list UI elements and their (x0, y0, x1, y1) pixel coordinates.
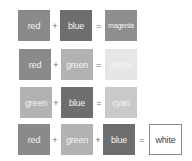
color-box-white: white (149, 124, 182, 155)
equals-sign: = (94, 49, 104, 80)
label-red: red (28, 21, 40, 31)
label-white: white (155, 135, 175, 145)
color-box-red: red (18, 10, 50, 41)
plus-sign: + (50, 124, 60, 155)
label-blue: blue (69, 98, 85, 108)
color-box-magenta: magenta (105, 10, 137, 41)
label-blue: blue (111, 135, 127, 145)
color-box-cyan: cyan (105, 87, 137, 118)
color-box-red: red (19, 49, 51, 80)
equals-sign: = (137, 124, 147, 155)
plus-sign: + (51, 49, 61, 80)
plus-sign: + (93, 124, 103, 155)
color-box-green: green (61, 49, 93, 80)
color-box-yellow: yellow (105, 49, 137, 80)
color-box-blue: blue (60, 10, 92, 41)
color-box-blue: blue (61, 87, 93, 118)
label-blue: blue (68, 21, 84, 31)
label-green: green (25, 98, 47, 108)
color-box-green: green (61, 124, 93, 155)
label-yellow: yellow (109, 60, 133, 70)
label-green: green (66, 60, 88, 70)
label-red: red (29, 60, 41, 70)
color-box-blue: blue (103, 124, 135, 155)
color-box-red: red (18, 124, 50, 155)
plus-sign: + (50, 10, 60, 41)
label-cyan: cyan (112, 98, 130, 108)
label-green: green (66, 135, 88, 145)
equals-sign: = (94, 10, 104, 41)
equals-sign: = (94, 87, 104, 118)
color-box-green: green (20, 87, 52, 118)
label-red: red (28, 135, 40, 145)
plus-sign: + (51, 87, 61, 118)
label-magenta: magenta (108, 22, 134, 29)
